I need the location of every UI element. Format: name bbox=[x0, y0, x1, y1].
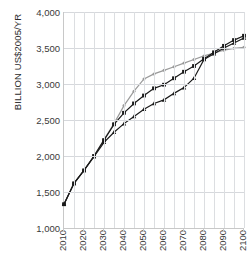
gridline-vertical bbox=[114, 12, 115, 228]
gridline-vertical bbox=[164, 12, 165, 228]
y-axis-tick-labels: 1,0001,5002,0002,5003,0003,5004,000 bbox=[22, 0, 60, 261]
plot-area bbox=[63, 12, 244, 229]
x-axis-tick-label: 2050 bbox=[137, 221, 148, 251]
x-axis-tick-label: 2010 bbox=[57, 221, 68, 251]
gridline-vertical bbox=[194, 12, 195, 228]
x-axis-tick-labels: 2010202020302040205020602070208020902100 bbox=[63, 230, 243, 261]
x-axis-tick-mark bbox=[63, 228, 64, 232]
y-axis-tick-label: 1,500 bbox=[22, 187, 60, 198]
y-axis-tick-label: 4,000 bbox=[22, 7, 60, 18]
gridline-vertical bbox=[234, 12, 235, 228]
gridline-vertical bbox=[144, 12, 145, 228]
gridline-vertical bbox=[204, 12, 205, 228]
y-axis-tick-label: 3,000 bbox=[22, 79, 60, 90]
x-axis-tick-label: 2090 bbox=[217, 221, 228, 251]
x-axis-tick-mark bbox=[83, 228, 84, 232]
x-axis-tick-mark bbox=[203, 228, 204, 232]
x-axis-tick-label: 2030 bbox=[97, 221, 108, 251]
x-axis-tick-mark bbox=[223, 228, 224, 232]
gridline-vertical bbox=[84, 12, 85, 228]
x-axis-tick-label: 2020 bbox=[77, 221, 88, 251]
y-axis-tick-label: 2,500 bbox=[22, 115, 60, 126]
x-axis-tick-label: 2070 bbox=[177, 221, 188, 251]
x-axis-tick-mark bbox=[243, 228, 244, 232]
y-axis-tick-label: 2,000 bbox=[22, 151, 60, 162]
x-axis-tick-label: 2100 bbox=[237, 221, 248, 251]
gridline-vertical bbox=[214, 12, 215, 228]
gridline-vertical bbox=[134, 12, 135, 228]
x-axis-tick-label: 2080 bbox=[197, 221, 208, 251]
y-axis-tick-label: 3,500 bbox=[22, 43, 60, 54]
x-axis-tick-mark bbox=[163, 228, 164, 232]
gridline-vertical bbox=[174, 12, 175, 228]
x-axis-tick-mark bbox=[123, 228, 124, 232]
gridline-vertical bbox=[154, 12, 155, 228]
x-axis-tick-mark bbox=[143, 228, 144, 232]
gridline-vertical bbox=[94, 12, 95, 228]
x-axis-tick-mark bbox=[103, 228, 104, 232]
gridline-vertical bbox=[224, 12, 225, 228]
x-axis-tick-label: 2040 bbox=[117, 221, 128, 251]
gridline-vertical bbox=[244, 12, 245, 228]
gridline-vertical bbox=[74, 12, 75, 228]
x-axis-tick-mark bbox=[183, 228, 184, 232]
chart-container: BILLION US$2005/YR 1,0001,5002,0002,5003… bbox=[0, 0, 249, 261]
gridline-vertical bbox=[124, 12, 125, 228]
gridline-vertical bbox=[184, 12, 185, 228]
x-axis-tick-label: 2060 bbox=[157, 221, 168, 251]
y-axis-tick-label: 1,000 bbox=[22, 223, 60, 234]
gridline-vertical bbox=[104, 12, 105, 228]
